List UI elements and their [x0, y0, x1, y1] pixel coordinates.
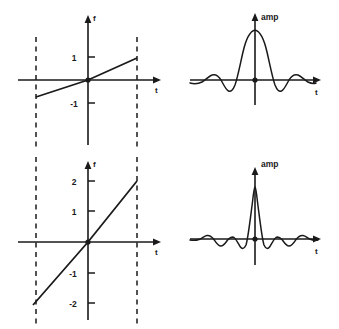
- y-tick-label-1: 1: [72, 207, 77, 217]
- origin-marker: [252, 236, 257, 241]
- y-axis-label: f: [93, 14, 96, 23]
- ramp-curve: [36, 58, 137, 97]
- x-axis-label: t: [155, 248, 158, 257]
- y-axis-label: f: [93, 160, 96, 169]
- panel-bottom-left: f t 2 1 -1 -2: [10, 155, 175, 327]
- x-axis-arrow: [153, 239, 161, 246]
- ramp-curve: [33, 181, 137, 305]
- origin-marker: [85, 77, 90, 82]
- sinc-waveform: [190, 30, 316, 91]
- y-axis-arrow: [252, 13, 259, 21]
- panel-top-right: amp t: [185, 5, 335, 115]
- origin-marker: [85, 239, 90, 244]
- y-axis-arrow: [85, 15, 92, 23]
- y-axis-label: amp: [261, 12, 278, 22]
- y-tick-label-2: 2: [72, 177, 77, 187]
- y-axis-label: amp: [261, 159, 278, 169]
- x-axis-arrow: [313, 236, 321, 243]
- x-axis-label: t: [315, 247, 318, 256]
- y-axis-arrow: [252, 167, 259, 175]
- x-axis-label: t: [315, 88, 318, 97]
- x-axis-arrow: [153, 77, 161, 84]
- origin-marker: [252, 77, 257, 82]
- y-tick-label-neg1: -1: [69, 269, 77, 279]
- panel-bottom-right: amp t: [185, 155, 335, 270]
- x-axis-arrow: [313, 77, 321, 84]
- x-axis-label: t: [155, 86, 158, 95]
- y-axis-arrow: [85, 161, 92, 169]
- y-tick-label-neg1: -1: [70, 99, 78, 109]
- y-tick-label-neg2: -2: [69, 299, 77, 309]
- figure-root: f t 1 -1 f t 2 1 -1 -2: [0, 0, 339, 329]
- y-tick-label-1: 1: [72, 53, 77, 63]
- panel-top-left: f t 1 -1: [10, 5, 175, 150]
